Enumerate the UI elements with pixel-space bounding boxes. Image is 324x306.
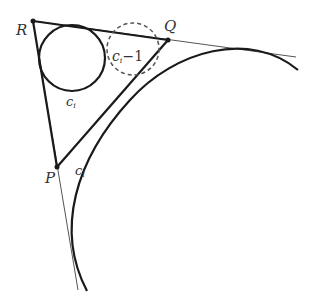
label-q: Q — [164, 17, 176, 35]
label-p: P — [44, 169, 56, 187]
label-r: R — [15, 21, 27, 39]
label-solid-circle: ci — [66, 94, 76, 110]
point-p — [55, 165, 60, 170]
side-rp — [33, 21, 57, 167]
label-arc: ci — [75, 163, 85, 179]
label-dashed-circle: ci−1 — [112, 48, 143, 65]
point-q — [166, 38, 171, 43]
point-r — [31, 19, 36, 24]
large-arc — [72, 49, 298, 291]
diagram-canvas: R Q P ci ci−1 ci — [0, 0, 324, 306]
solid-circle — [39, 25, 105, 91]
